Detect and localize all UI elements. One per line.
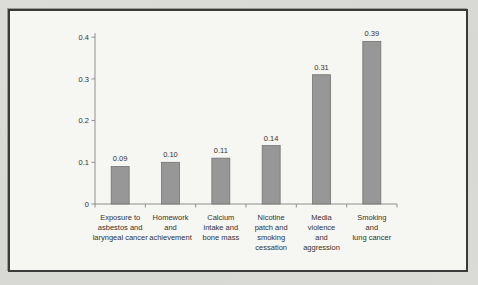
bar — [363, 41, 381, 204]
category-tick-label: Calcium — [207, 213, 234, 222]
category-tick-label: violence — [308, 223, 336, 232]
bar — [161, 162, 179, 204]
y-tick-label: 0.3 — [79, 75, 89, 84]
bar — [111, 166, 129, 204]
category-tick-label: Smoking — [357, 213, 386, 222]
category-tick-label: Nicotine — [258, 213, 285, 222]
bar-chart: 00.10.20.30.40.09Exposure toasbestos and… — [10, 11, 466, 270]
category-tick-label: asbestos and — [98, 223, 143, 232]
y-tick-label: 0 — [85, 200, 89, 209]
y-tick-label: 0.2 — [79, 116, 89, 125]
category-tick-label: and — [315, 233, 328, 242]
bar-value-label: 0.10 — [163, 150, 178, 159]
category-tick-label: bone mass — [202, 233, 239, 242]
category-tick-label: cessation — [255, 243, 287, 252]
bar — [212, 158, 230, 204]
y-tick-label: 0.4 — [79, 33, 89, 42]
category-tick-label: smoking — [257, 233, 285, 242]
category-tick-label: intake and — [204, 223, 239, 232]
category-tick-label: patch and — [255, 223, 288, 232]
bar — [312, 75, 330, 204]
category-tick-label: lung cancer — [352, 233, 391, 242]
category-tick-label: achievement — [149, 233, 192, 242]
category-tick-label: laryngeal cancer — [93, 233, 149, 242]
category-tick-label: and — [366, 223, 379, 232]
y-tick-label: 0.1 — [79, 158, 89, 167]
bar-value-label: 0.14 — [264, 134, 279, 143]
figure-panel: 00.10.20.30.40.09Exposure toasbestos and… — [8, 9, 468, 272]
bar-value-label: 0.11 — [214, 146, 228, 155]
category-tick-label: Exposure to — [100, 213, 140, 222]
bar-value-label: 0.39 — [365, 29, 380, 38]
category-tick-label: aggression — [303, 243, 340, 252]
bar-value-label: 0.31 — [314, 63, 329, 72]
bar — [262, 146, 280, 204]
page-background: 00.10.20.30.40.09Exposure toasbestos and… — [0, 0, 478, 285]
category-tick-label: and — [164, 223, 177, 232]
category-tick-label: Media — [311, 213, 332, 222]
category-tick-label: Homework — [153, 213, 189, 222]
bar-value-label: 0.09 — [113, 154, 128, 163]
